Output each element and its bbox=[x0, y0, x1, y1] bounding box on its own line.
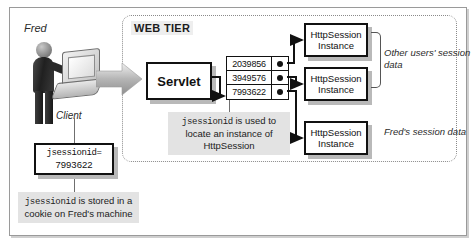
caption-mid-code: jsessionid bbox=[182, 117, 233, 127]
cookie-line1: jsessionid= bbox=[46, 148, 101, 159]
httpsession-instance-box-3: HttpSession Instance bbox=[304, 121, 368, 155]
freds-session-data-label: Fred's session data bbox=[384, 126, 466, 138]
cookie-line2: 7993622 bbox=[56, 159, 93, 170]
session-id-row: 2039856 bbox=[227, 57, 288, 71]
cookie-box: jsessionid= 7993622 bbox=[34, 143, 114, 175]
session-id-pointer-cell bbox=[272, 71, 288, 84]
screen-icon bbox=[68, 55, 95, 80]
pointer-dot-icon bbox=[277, 89, 283, 95]
session-id-pointer-cell bbox=[272, 57, 288, 70]
pointer-dot-icon bbox=[277, 75, 283, 81]
session-id-value: 7993622 bbox=[227, 85, 272, 99]
computer-illustration bbox=[54, 50, 102, 108]
session-id-value: 2039856 bbox=[227, 57, 272, 70]
httpsession-line1: HttpSession bbox=[310, 127, 361, 138]
session-id-value: 3949576 bbox=[227, 71, 272, 84]
client-label: Client bbox=[56, 110, 82, 121]
httpsession-instance-box-2: HttpSession Instance bbox=[304, 67, 368, 101]
caption-jsessionid-locate: jsessionid is used to locate an instance… bbox=[168, 112, 290, 155]
httpsession-line2: Instance bbox=[318, 138, 354, 149]
other-users-bracket-icon bbox=[371, 32, 381, 88]
pointer-dot-icon bbox=[277, 61, 283, 67]
web-tier-title: WEB TIER bbox=[131, 21, 193, 35]
httpsession-instance-box-1: HttpSession Instance bbox=[304, 23, 368, 57]
httpsession-line2: Instance bbox=[318, 40, 354, 51]
other-users-label: Other users' session data bbox=[384, 47, 476, 71]
fred-label: Fred bbox=[24, 22, 47, 34]
request-arrow-icon bbox=[96, 62, 142, 96]
session-id-pointer-cell bbox=[272, 85, 288, 99]
httpsession-line1: HttpSession bbox=[310, 73, 361, 84]
session-id-table: 2039856 3949576 7993622 bbox=[226, 56, 289, 100]
session-id-row: 7993622 bbox=[227, 85, 288, 99]
servlet-box: Servlet bbox=[146, 62, 212, 100]
session-id-row: 3949576 bbox=[227, 71, 288, 85]
httpsession-line2: Instance bbox=[318, 84, 354, 95]
caption-jsessionid-cookie: jsessionid is stored in a cookie on Fred… bbox=[18, 192, 139, 223]
figure-root: WEB TIER Fred Client Servlet bbox=[0, 0, 476, 245]
caption-bottom-code: jsessionid bbox=[25, 197, 76, 207]
person-leg-left-icon bbox=[35, 91, 43, 124]
cookie-connector-upper bbox=[74, 118, 75, 144]
httpsession-line1: HttpSession bbox=[310, 29, 361, 40]
person-head-icon bbox=[36, 42, 52, 58]
